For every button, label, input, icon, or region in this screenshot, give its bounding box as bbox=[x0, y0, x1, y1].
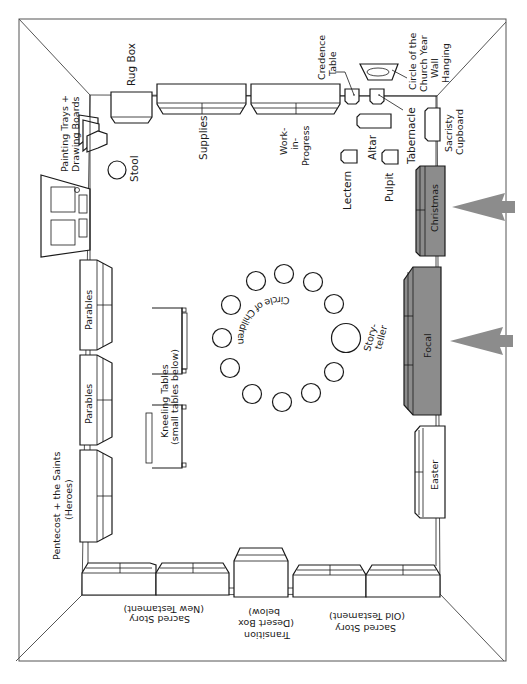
work-in-progress-label-1: Work- bbox=[278, 128, 289, 155]
sacred-story-ot-label-2: (Old Testament) bbox=[329, 611, 405, 622]
supplies-label: Supplies bbox=[197, 116, 209, 160]
child-seat[interactable] bbox=[275, 265, 294, 284]
child-seat[interactable] bbox=[222, 296, 241, 315]
work-in-progress-shelf[interactable]: Work- in- Progress bbox=[251, 84, 340, 166]
arrow-focal-icon bbox=[450, 327, 513, 355]
child-seat[interactable] bbox=[213, 329, 232, 348]
transition-desert-box[interactable] bbox=[234, 548, 288, 597]
lectern-label: Lectern bbox=[341, 171, 353, 210]
child-seat[interactable] bbox=[221, 359, 240, 378]
easter-label: Easter bbox=[429, 460, 440, 490]
focal-shelf[interactable]: Focal bbox=[404, 267, 441, 415]
circle-of-children-label: Circle of Children bbox=[236, 295, 290, 345]
easter-shelf[interactable]: Easter bbox=[415, 426, 445, 518]
stool-label: Stool bbox=[128, 155, 140, 182]
christmas-label: Christmas bbox=[429, 184, 440, 232]
kneeling-tables-label-2: (small tables below) bbox=[169, 349, 180, 445]
transition-label-1: Transition bbox=[244, 630, 291, 641]
pentecost-label-1: Pentecost + the Saints bbox=[51, 452, 62, 560]
sacred-story-nt-shelf-2[interactable] bbox=[156, 563, 229, 595]
lectern[interactable]: Lectern bbox=[341, 150, 357, 210]
tabernacle-label: Tabernacle bbox=[405, 107, 417, 165]
child-seat[interactable] bbox=[247, 272, 266, 291]
supplies-shelf[interactable]: Supplies bbox=[157, 84, 246, 160]
sacred-story-ot-shelf-1[interactable] bbox=[293, 565, 366, 597]
classroom-floor-plan: Rug Box Supplies Work- in- Progress Cred… bbox=[0, 0, 527, 684]
parables-shelf-1[interactable]: Parables bbox=[80, 260, 112, 350]
church-year-label-1: Circle of the bbox=[407, 32, 418, 90]
transition-label-3: below) bbox=[248, 607, 280, 618]
painting-trays-drawing-boards[interactable]: Painting Trays + Drawing Boards bbox=[59, 95, 107, 172]
rug-box[interactable]: Rug Box bbox=[111, 43, 152, 123]
painting-trays-label-2: Drawing Boards bbox=[70, 97, 81, 172]
work-in-progress-label-2: in- bbox=[289, 138, 300, 150]
pulpit[interactable]: Pulpit bbox=[382, 150, 398, 202]
credence-table-label-1: Credence bbox=[316, 35, 327, 80]
parables-shelf-2[interactable]: Parables bbox=[80, 355, 112, 445]
parables-label-1: Parables bbox=[83, 290, 94, 330]
child-seat[interactable] bbox=[304, 273, 323, 292]
stool[interactable]: Stool bbox=[108, 155, 140, 182]
corner-line-tl bbox=[19, 19, 90, 95]
pentecost-label-2: (Heroes) bbox=[63, 479, 74, 520]
child-seat[interactable] bbox=[273, 393, 292, 412]
transition-label-2: (Desert Box bbox=[238, 618, 294, 629]
sacred-story-ot-label-1: Sacred Story bbox=[335, 623, 396, 634]
painting-trays-label-1: Painting Trays + bbox=[59, 95, 70, 172]
corner-line-bl bbox=[16, 595, 82, 661]
church-year-label-4: Hanging bbox=[440, 43, 451, 83]
sacred-story-ot-shelf-2[interactable] bbox=[366, 565, 440, 597]
child-seat[interactable] bbox=[325, 295, 344, 314]
sacristy-cupboard[interactable]: Sacristy Cupboard bbox=[425, 108, 465, 155]
sacred-story-nt-label-2: (New Testament) bbox=[123, 604, 204, 615]
child-seat[interactable] bbox=[325, 363, 344, 382]
credence-table-label-2: Table bbox=[327, 51, 338, 77]
rug-box-label: Rug Box bbox=[125, 43, 137, 86]
corner-line-br bbox=[440, 594, 504, 661]
sacristy-cupboard-label-1: Sacristy bbox=[443, 114, 454, 152]
altar-label: Altar bbox=[366, 134, 378, 160]
sacred-story-nt-shelf-1[interactable] bbox=[82, 563, 156, 595]
circle-of-children[interactable]: Circle of Children Story- teller bbox=[213, 265, 390, 412]
focal-label: Focal bbox=[422, 333, 433, 358]
church-year-label-2: Church Year bbox=[418, 35, 429, 92]
child-seat[interactable] bbox=[243, 385, 262, 404]
circle-of-church-year-wall-hanging[interactable]: Circle of the Church Year Wall Hanging bbox=[360, 32, 451, 92]
christmas-shelf[interactable]: Christmas bbox=[416, 166, 445, 256]
parables-label-2: Parables bbox=[83, 384, 94, 424]
pulpit-label: Pulpit bbox=[383, 173, 395, 202]
pentecost-saints-shelf[interactable]: Pentecost + the Saints (Heroes) bbox=[51, 450, 112, 560]
storyteller-seat[interactable] bbox=[332, 324, 361, 353]
church-year-label-3: Wall bbox=[429, 58, 440, 78]
work-in-progress-label-3: Progress bbox=[300, 125, 311, 166]
door[interactable] bbox=[41, 175, 90, 257]
sacristy-cupboard-label-2: Cupboard bbox=[454, 109, 465, 155]
child-seat[interactable] bbox=[302, 384, 321, 403]
